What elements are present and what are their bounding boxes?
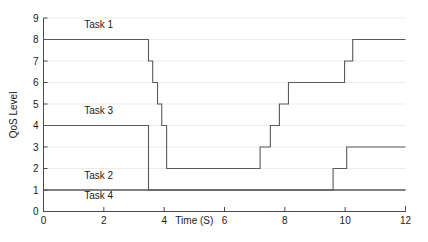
series-label-task-2: Task 2 [84, 170, 113, 181]
series-label-task-1: Task 1 [84, 19, 113, 30]
y-tick-label-7: 7 [33, 56, 39, 67]
x-tick-label-8: 8 [282, 215, 288, 226]
y-tick-label-4: 4 [33, 120, 39, 131]
y-tick-label-1: 1 [33, 185, 39, 196]
y-tick-label-3: 3 [33, 142, 39, 153]
y-tick-label-2: 2 [33, 163, 39, 174]
y-tick-label-0: 0 [33, 206, 39, 217]
chart-background [0, 0, 428, 242]
x-tick-label-12: 12 [400, 215, 412, 226]
chart-figure: 0123456789 024681012 QoS Level Time (S) … [0, 0, 428, 242]
y-tick-label-9: 9 [33, 13, 39, 24]
y-tick-label-8: 8 [33, 34, 39, 45]
x-tick-label-0: 0 [41, 215, 47, 226]
y-tick-label-5: 5 [33, 99, 39, 110]
x-tick-label-4: 4 [161, 215, 167, 226]
y-axis-title: QoS Level [8, 92, 19, 139]
x-axis-title: Time (S) [175, 215, 213, 226]
y-tick-label-6: 6 [33, 77, 39, 88]
x-tick-label-10: 10 [340, 215, 352, 226]
series-label-task-4: Task 4 [84, 190, 113, 201]
x-tick-label-2: 2 [101, 215, 107, 226]
x-tick-label-6: 6 [222, 215, 228, 226]
qos-level-step-chart: 0123456789 024681012 QoS Level Time (S) … [0, 0, 428, 242]
series-label-task-3: Task 3 [84, 105, 113, 116]
